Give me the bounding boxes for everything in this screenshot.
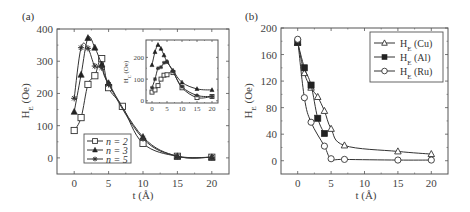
star-marker: [85, 45, 91, 51]
filled-triangle-marker: [92, 44, 98, 50]
open-circle-marker: [428, 157, 434, 163]
filled-square-marker: [321, 130, 327, 136]
y-tick-label: 400: [37, 23, 54, 35]
x-tick-label: 0: [71, 177, 77, 189]
x-axis-title: t (Å): [355, 189, 376, 202]
open-circle-marker: [295, 36, 301, 42]
star-marker: [165, 60, 169, 64]
filled-square-marker: [382, 54, 388, 60]
y-tick-label: 0: [141, 97, 145, 105]
filled-square-marker: [301, 65, 307, 71]
open-circle-marker: [341, 156, 347, 162]
star-marker: [106, 81, 112, 87]
y-tick-label: 200: [37, 87, 54, 99]
open-circle-marker: [301, 95, 307, 101]
open-square-marker: [78, 115, 84, 121]
open-circle-marker: [308, 119, 314, 125]
y-axis-title: HE (Oe): [19, 83, 35, 119]
star-marker: [195, 93, 199, 97]
open-square-marker: [92, 73, 98, 79]
filled-square-marker: [315, 115, 321, 121]
y-tick-label: 200: [134, 54, 145, 62]
x-tick-label: 15: [392, 177, 404, 189]
x-tick-label: 0: [150, 105, 154, 113]
open-square-marker: [85, 81, 91, 87]
y-tick-label: 100: [134, 76, 145, 84]
star-marker: [93, 157, 98, 162]
y-tick-label: 0: [48, 152, 54, 164]
x-tick-label: 10: [359, 177, 371, 189]
legend-b: HE (Cu)HE (Al)HE (Ru): [370, 32, 443, 82]
panel-a: (a)051015200100200300400HE (Oe)t (Å)n = …: [19, 10, 229, 202]
filled-triangle-marker: [71, 108, 77, 114]
star-marker: [140, 135, 146, 141]
open-circle-marker: [321, 143, 327, 149]
filled-triangle-marker: [153, 50, 157, 54]
y-tick-label: 160: [261, 49, 278, 61]
x-tick-label: 5: [106, 177, 112, 189]
open-circle-marker: [382, 68, 388, 74]
filled-triangle-marker: [78, 71, 84, 77]
star-marker: [92, 63, 98, 69]
y-tick-label: 0: [272, 155, 278, 167]
star-marker: [159, 65, 163, 69]
y-tick-label: 300: [37, 55, 54, 67]
open-square-marker: [156, 84, 160, 88]
open-square-marker: [93, 139, 98, 144]
open-triangle-marker: [328, 125, 335, 131]
y-tick-label: 100: [37, 120, 54, 132]
star-marker: [209, 154, 215, 160]
open-square-marker: [153, 88, 157, 92]
legend-item-label: n = 5: [106, 154, 128, 165]
x-axis-title: t (Å): [132, 189, 153, 202]
star-marker: [99, 65, 105, 71]
y-tick-label: 120: [261, 75, 278, 87]
star-marker: [71, 95, 77, 101]
x-tick-label: 10: [138, 177, 150, 189]
legend-a: n = 2n = 3n = 5: [84, 134, 131, 165]
x-tick-label: 0: [295, 177, 301, 189]
inset-chart: 051015200100200HC (Oe): [122, 40, 218, 113]
y-tick-label: 40: [266, 128, 278, 140]
y-axis-title: HE (Oe): [242, 83, 258, 119]
x-tick-label: 15: [194, 105, 202, 113]
open-square-marker: [71, 127, 77, 133]
open-triangle-marker: [321, 107, 328, 113]
star-marker: [150, 86, 154, 90]
y-tick-label: 80: [266, 102, 278, 114]
x-tick-label: 5: [328, 177, 334, 189]
filled-triangle-marker: [156, 43, 160, 47]
star-marker: [210, 94, 214, 98]
panel-label-a: (a): [22, 10, 35, 23]
star-marker: [174, 153, 180, 159]
x-tick-label: 10: [179, 105, 187, 113]
star-marker: [78, 45, 84, 51]
star-marker: [171, 70, 175, 74]
star-marker: [153, 77, 157, 81]
open-square-marker: [165, 73, 169, 77]
x-tick-label: 20: [206, 177, 218, 189]
x-tick-label: 5: [165, 105, 169, 113]
y-tick-label: 200: [261, 22, 278, 34]
y-axis-title: HC (Oe): [122, 60, 132, 83]
x-tick-label: 20: [209, 105, 217, 113]
filled-square-marker: [308, 82, 314, 88]
x-tick-label: 20: [426, 177, 438, 189]
filled-triangle-marker: [150, 63, 154, 67]
x-tick-label: 15: [172, 177, 184, 189]
filled-triangle-marker: [162, 53, 166, 57]
star-marker: [180, 85, 184, 89]
open-circle-marker: [328, 156, 334, 162]
panel-label-b: (b): [245, 10, 258, 23]
panel-b: (b)0510152004080120160200HE (Oe)t (Å)HE …: [242, 10, 448, 202]
open-circle-marker: [395, 157, 401, 163]
open-square-marker: [159, 77, 163, 81]
chart-figure: (a)051015200100200300400HE (Oe)t (Å)n = …: [0, 0, 470, 212]
